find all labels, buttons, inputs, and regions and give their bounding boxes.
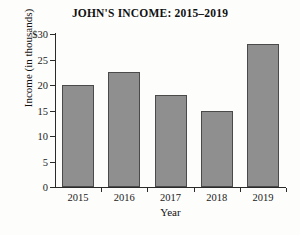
y-tick-label: 5 xyxy=(8,156,48,167)
chart-title: JOHN'S INCOME: 2015–2019 xyxy=(0,7,300,19)
x-tick-mark xyxy=(194,188,195,192)
x-tick-label: 2019 xyxy=(252,192,273,203)
x-tick-mark xyxy=(240,188,241,192)
x-tick-mark xyxy=(286,188,287,192)
x-tick-mark xyxy=(101,188,102,192)
bar xyxy=(155,95,187,187)
bar xyxy=(247,44,279,187)
y-tick-label: 0 xyxy=(8,182,48,193)
bar xyxy=(108,72,140,187)
plot-area xyxy=(55,34,285,187)
x-axis-line xyxy=(55,187,286,188)
x-tick-label: 2018 xyxy=(206,192,227,203)
bar xyxy=(201,111,233,188)
x-axis-label: Year xyxy=(55,206,286,218)
bar-chart-figure: JOHN'S INCOME: 2015–2019 0510152025$30 2… xyxy=(0,0,300,235)
bar xyxy=(62,85,94,187)
y-tick-mark xyxy=(50,187,55,188)
y-axis-label: Income (in thousands) xyxy=(22,0,34,133)
x-tick-label: 2017 xyxy=(160,192,181,203)
x-tick-label: 2015 xyxy=(68,192,89,203)
x-tick-label: 2016 xyxy=(114,192,135,203)
x-tick-mark xyxy=(147,188,148,192)
